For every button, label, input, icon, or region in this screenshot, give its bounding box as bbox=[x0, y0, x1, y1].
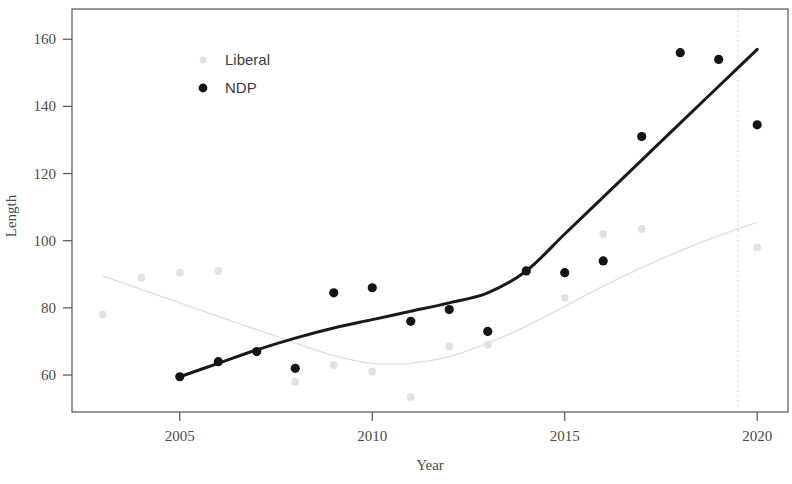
x-axis-tick-label: 2010 bbox=[357, 428, 387, 444]
data-point-ndp bbox=[368, 283, 377, 292]
x-axis-tick-label: 2020 bbox=[742, 428, 772, 444]
data-point-ndp bbox=[599, 256, 608, 265]
data-point-liberal bbox=[561, 294, 569, 302]
legend-marker-liberal bbox=[200, 57, 207, 64]
data-point-ndp bbox=[252, 347, 261, 356]
data-point-liberal bbox=[368, 368, 376, 376]
data-point-ndp bbox=[406, 317, 415, 326]
trend-line-ndp bbox=[180, 49, 757, 376]
y-axis-tick-label: 160 bbox=[34, 31, 57, 47]
data-point-liberal bbox=[214, 267, 222, 275]
data-point-ndp bbox=[175, 372, 184, 381]
data-point-liberal bbox=[176, 269, 184, 277]
data-point-ndp bbox=[445, 305, 454, 314]
data-point-liberal bbox=[484, 341, 492, 349]
data-point-ndp bbox=[291, 364, 300, 373]
data-point-ndp bbox=[714, 55, 723, 64]
y-axis-tick-label: 60 bbox=[41, 367, 56, 383]
data-point-ndp bbox=[522, 266, 531, 275]
data-point-liberal bbox=[638, 225, 646, 233]
legend-marker-ndp bbox=[199, 84, 208, 93]
y-axis: 6080100120140160 bbox=[34, 31, 73, 383]
data-point-ndp bbox=[214, 357, 223, 366]
legend-label-ndp: NDP bbox=[225, 79, 257, 96]
data-point-liberal bbox=[137, 274, 145, 282]
y-axis-tick-label: 100 bbox=[34, 233, 57, 249]
data-point-liberal bbox=[753, 244, 761, 252]
data-point-ndp bbox=[329, 288, 338, 297]
data-point-ndp bbox=[637, 132, 646, 141]
chart-container: 2005201020152020 6080100120140160 Year L… bbox=[0, 0, 792, 484]
x-axis-tick-label: 2015 bbox=[550, 428, 580, 444]
data-point-liberal bbox=[445, 343, 453, 351]
data-point-ndp bbox=[676, 48, 685, 57]
data-point-ndp bbox=[753, 120, 762, 129]
trend-line-liberal bbox=[103, 222, 757, 364]
y-axis-tick-label: 120 bbox=[34, 166, 57, 182]
y-axis-tick-label: 80 bbox=[41, 300, 56, 316]
data-point-ndp bbox=[560, 268, 569, 277]
data-points-layer bbox=[99, 48, 762, 401]
x-axis-title: Year bbox=[416, 457, 444, 473]
scatter-plot-figure: 2005201020152020 6080100120140160 Year L… bbox=[0, 0, 792, 484]
y-axis-title: Length bbox=[3, 194, 19, 237]
y-axis-tick-label: 140 bbox=[34, 98, 57, 114]
data-point-liberal bbox=[99, 311, 107, 319]
data-point-ndp bbox=[483, 327, 492, 336]
data-point-liberal bbox=[330, 361, 338, 369]
trend-line-layer bbox=[103, 49, 757, 376]
x-axis: 2005201020152020 bbox=[165, 412, 772, 444]
data-point-liberal bbox=[407, 393, 415, 401]
data-point-liberal bbox=[599, 230, 607, 238]
legend-label-liberal: Liberal bbox=[225, 51, 270, 68]
x-axis-tick-label: 2005 bbox=[165, 428, 195, 444]
legend: LiberalNDP bbox=[199, 51, 270, 96]
data-point-liberal bbox=[291, 378, 299, 386]
plot-frame bbox=[72, 9, 788, 412]
